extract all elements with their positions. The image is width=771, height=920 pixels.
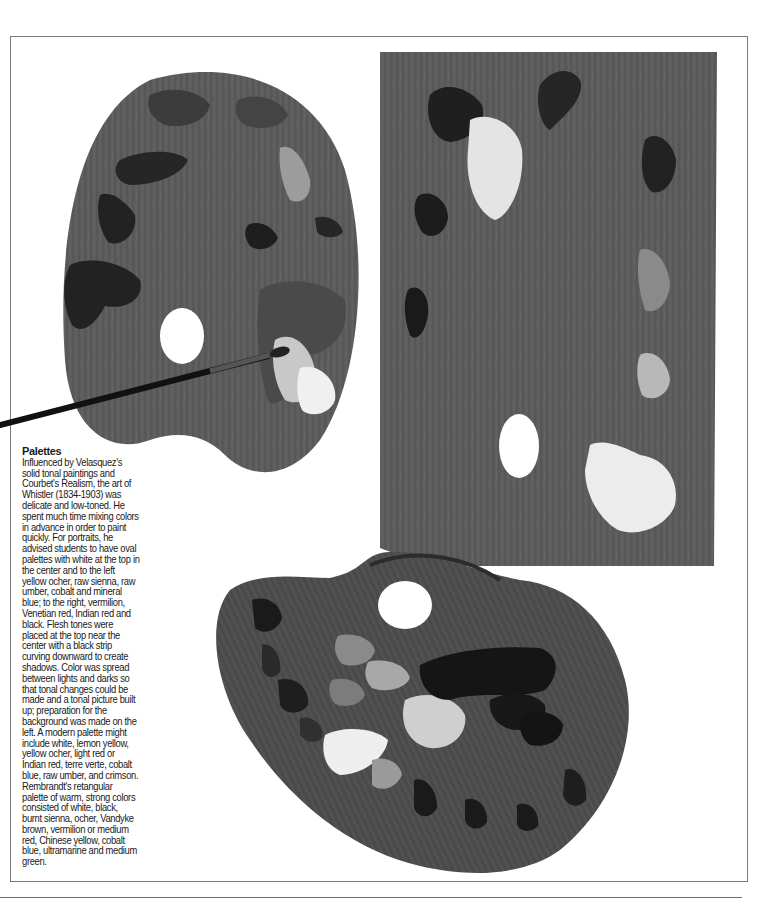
caption-title: Palettes [22,446,140,457]
oval-palette-bottom [216,552,629,873]
rectangular-palette [380,52,717,566]
caption-body: Influenced by Velasquez's solid tonal pa… [22,458,140,868]
caption: Palettes Influenced by Velasquez's solid… [22,446,140,868]
oval-palette-top [63,72,358,472]
